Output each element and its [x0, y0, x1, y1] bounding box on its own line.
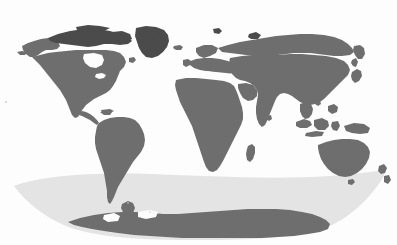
world-map-figure: World Map: [0, 0, 397, 245]
artifact-speck-2: [127, 202, 129, 204]
artifact-speck-3: [149, 211, 151, 213]
world-map-svg: [0, 0, 397, 245]
artifact-speck-1: [5, 101, 7, 103]
